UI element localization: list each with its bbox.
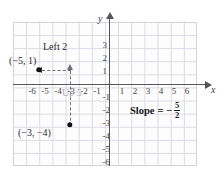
x-tick-label: -6 [28, 86, 36, 96]
fraction-denominator: 2 [174, 111, 180, 120]
x-axis-label: x [211, 84, 215, 95]
equals-sign: = [158, 105, 164, 116]
y-tick-label: 1 [103, 66, 108, 76]
slope-fraction: 5 2 [174, 101, 180, 120]
left-dashed-line [42, 70, 71, 71]
x-tick-label: 1 [120, 86, 125, 96]
x-tick-label: 3 [146, 86, 151, 96]
y-tick-label: -2 [103, 105, 111, 115]
x-tick-label: 6 [185, 86, 190, 96]
x-tick-label: 4 [159, 86, 164, 96]
x-tick-label: -5 [41, 86, 49, 96]
x-tick-label: -4 [54, 86, 62, 96]
graph-figure: x y -6 -5 -4 -3 -2 -1 1 2 3 4 5 6 3 2 1 … [0, 0, 224, 182]
y-tick-label: 2 [103, 53, 108, 63]
y-tick-label: -5 [103, 144, 111, 154]
fraction-numerator: 5 [174, 101, 180, 110]
y-tick-label: 3 [103, 40, 108, 50]
up-move-label: Up 5 [62, 87, 82, 98]
point-b-label: (−3, −4) [18, 127, 51, 138]
x-tick-label: 5 [172, 86, 177, 96]
left-move-label: Left 2 [43, 41, 67, 52]
x-tick-label: 2 [133, 86, 138, 96]
up-dashed-line [70, 71, 71, 126]
y-tick-label: -3 [103, 118, 111, 128]
y-axis-label: y [98, 13, 102, 24]
minus-sign: − [167, 105, 173, 116]
y-tick-label: -4 [103, 131, 111, 141]
point-a-label: (−5, 1) [9, 55, 36, 66]
slope-formula: Slope = − 5 2 [130, 101, 180, 120]
y-tick-label: -6 [103, 157, 111, 167]
slope-word: Slope [130, 105, 155, 116]
x-tick-label: -1 [93, 86, 101, 96]
y-tick-label: -1 [103, 92, 111, 102]
y-axis-arrow-icon [106, 12, 114, 19]
